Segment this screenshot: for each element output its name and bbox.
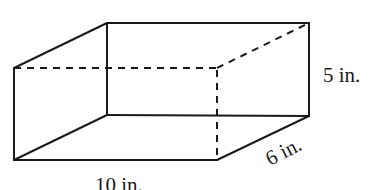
edge-bottom-left-diagonal (14, 115, 107, 160)
height-label: 5 in. (323, 63, 360, 87)
edge-back-bottom (107, 115, 309, 116)
width-label: 6 in. (261, 132, 305, 170)
edge-top-right-diagonal-hidden (217, 23, 309, 68)
rectangular-prism-diagram: 5 in. 6 in. 10 in. (0, 0, 381, 190)
length-label: 10 in. (95, 173, 143, 190)
edge-top-left-diagonal (14, 23, 107, 68)
